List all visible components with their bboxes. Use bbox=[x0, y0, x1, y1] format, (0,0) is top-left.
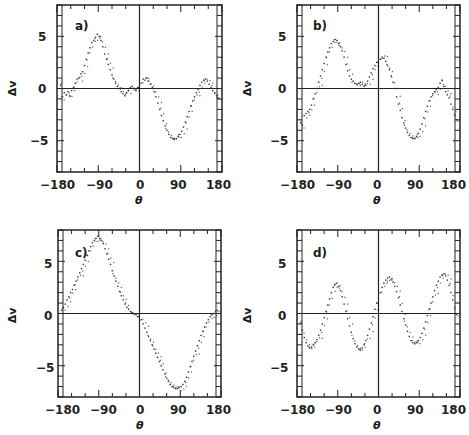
plot-area bbox=[235, 215, 469, 435]
panel-a: Δv 5 0 −5 −180 −90 0 90 180 θ a) bbox=[0, 0, 235, 215]
panel-d: Δv 5 0 −5 −180 −90 0 90 180 θ d) bbox=[235, 215, 469, 435]
plot-area bbox=[235, 0, 469, 215]
panel-tag: b) bbox=[313, 19, 327, 33]
panel-c: Δv 5 0 −5 −180 −90 0 90 180 θ c) bbox=[0, 215, 235, 435]
plot-area bbox=[0, 215, 235, 435]
panel-tag: a) bbox=[75, 19, 89, 33]
panel-tag: d) bbox=[313, 246, 327, 260]
data-points bbox=[300, 273, 459, 351]
panel-b: Δv 5 0 −5 −180 −90 0 90 180 θ b) bbox=[235, 0, 469, 215]
panel-tag: c) bbox=[75, 246, 88, 260]
plot-area bbox=[0, 0, 235, 215]
data-points bbox=[60, 34, 221, 141]
